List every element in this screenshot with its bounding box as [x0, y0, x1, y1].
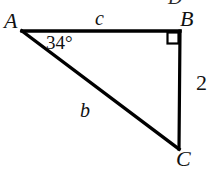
- vertex-label-c: C: [176, 148, 191, 170]
- side-label-bc-length: 2: [196, 72, 207, 94]
- right-triangle-figure: A B C c b 34° 2 D: [0, 0, 210, 176]
- side-label-c: c: [95, 8, 104, 28]
- side-bc-line: [179, 31, 180, 149]
- angle-label-a: 34°: [46, 33, 73, 52]
- vertex-label-b: B: [180, 8, 193, 30]
- side-label-b: b: [80, 100, 90, 120]
- cut-off-text-above: D: [168, 0, 182, 7]
- vertex-label-a: A: [4, 10, 17, 32]
- right-angle-marker-icon: [168, 33, 179, 44]
